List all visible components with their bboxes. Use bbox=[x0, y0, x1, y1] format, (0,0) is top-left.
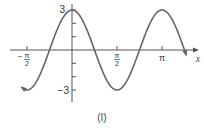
curve-right-arrow-icon bbox=[182, 50, 187, 57]
x-axis-arrow-icon bbox=[193, 48, 199, 53]
y-label-neg3: −3 bbox=[58, 85, 70, 96]
x-label-neg-half-pi-num: π bbox=[25, 52, 30, 59]
x-label-half-pi-num: π bbox=[115, 52, 120, 59]
x-label-neg-half-pi-den: 2 bbox=[25, 60, 29, 67]
x-label-half-pi-den: 2 bbox=[115, 60, 119, 67]
curve-left-arrow-icon bbox=[20, 86, 27, 92]
x-label-pi: π bbox=[159, 53, 165, 63]
x-axis-label: x bbox=[195, 53, 201, 64]
x-label-neg-sign: − bbox=[18, 52, 23, 61]
figure-caption: (I) bbox=[0, 112, 204, 123]
y-label-3: 3 bbox=[59, 4, 65, 15]
